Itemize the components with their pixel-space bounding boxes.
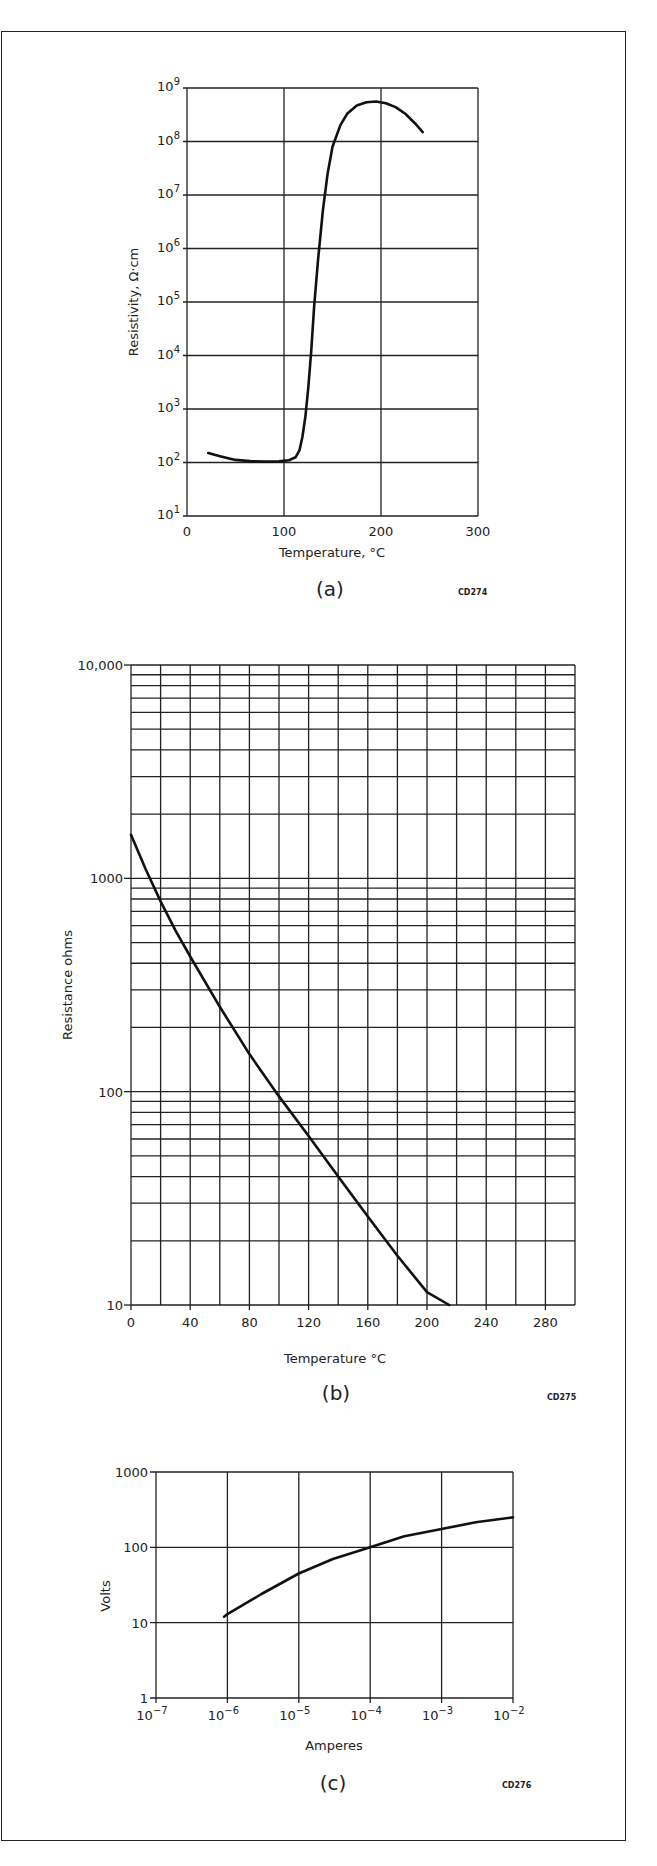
chart-c-curve xyxy=(224,1517,513,1616)
chart-a-x-tick: 100 xyxy=(272,524,297,539)
chart-a-figure-code: CD274 xyxy=(458,588,488,597)
chart-a-y-tick: 104 xyxy=(157,344,180,362)
chart-c-y-tick: 1 xyxy=(140,1691,148,1706)
chart-b-x-tick: 40 xyxy=(182,1315,199,1330)
chart-c-tick-labels: 10−710−610−510−410−310−21101001000 xyxy=(115,1465,525,1723)
chart-b-x-tick: 160 xyxy=(355,1315,380,1330)
chart-b-y-tick: 100 xyxy=(98,1085,123,1100)
chart-c-x-axis-label: Amperes xyxy=(305,1738,363,1753)
chart-a-x-axis-label: Temperature, °C xyxy=(278,545,385,560)
chart-b-grid xyxy=(124,665,575,1310)
chart-c-y-tick: 100 xyxy=(123,1540,148,1555)
chart-c-grid xyxy=(150,1472,513,1703)
figure-canvas: 0100200300101102103104105106107108109 Re… xyxy=(0,0,657,1866)
chart-a-y-tick: 106 xyxy=(157,237,180,255)
chart-c-y-axis-label: Volts xyxy=(98,1580,113,1612)
chart-c-y-tick: 10 xyxy=(131,1616,148,1631)
chart-c-x-tick: 10−5 xyxy=(279,1705,310,1723)
chart-c-x-tick: 10−6 xyxy=(208,1705,239,1723)
chart-b-x-tick: 280 xyxy=(533,1315,558,1330)
chart-b-x-axis-label: Temperature °C xyxy=(283,1351,386,1366)
chart-a-y-tick: 105 xyxy=(157,290,180,308)
chart-a-x-tick: 300 xyxy=(466,524,491,539)
chart-b-x-tick: 80 xyxy=(241,1315,258,1330)
chart-a-x-tick: 0 xyxy=(183,524,191,539)
chart-a-resistivity-vs-temperature: 0100200300101102103104105106107108109 Re… xyxy=(126,76,490,601)
chart-a-x-tick: 200 xyxy=(369,524,394,539)
chart-a-y-tick: 103 xyxy=(157,397,180,415)
chart-a-y-tick: 102 xyxy=(157,451,180,469)
chart-c-x-tick: 10−4 xyxy=(351,1705,382,1723)
chart-c-x-tick: 10−3 xyxy=(422,1705,453,1723)
chart-a-y-tick: 101 xyxy=(157,504,180,522)
chart-a-tick-labels: 0100200300101102103104105106107108109 xyxy=(157,76,490,539)
chart-c-figure-code: CD276 xyxy=(502,1781,532,1790)
chart-b-x-tick: 200 xyxy=(415,1315,440,1330)
chart-c-volts-vs-amperes: 10−710−610−510−410−310−21101001000 Volts… xyxy=(98,1465,532,1795)
chart-b-y-axis-label: Resistance ohms xyxy=(60,930,75,1040)
chart-a-y-tick: 109 xyxy=(157,76,180,94)
chart-b-y-tick: 10 xyxy=(106,1298,123,1313)
chart-c-x-tick: 10−2 xyxy=(493,1705,524,1723)
chart-b-resistance-vs-temperature: 0408012016020024028010100100010,000 Resi… xyxy=(60,658,577,1405)
chart-b-figure-code: CD275 xyxy=(547,1393,577,1402)
chart-a-y-tick: 107 xyxy=(157,183,180,201)
chart-b-x-tick: 240 xyxy=(474,1315,499,1330)
chart-b-x-tick: 120 xyxy=(296,1315,321,1330)
chart-a-y-tick: 108 xyxy=(157,130,180,148)
chart-b-panel-label: (b) xyxy=(322,1381,350,1405)
chart-c-panel-label: (c) xyxy=(320,1771,347,1795)
chart-c-x-tick: 10−7 xyxy=(136,1705,167,1723)
chart-a-y-axis-label: Resistivity, Ω·cm xyxy=(126,248,141,357)
chart-a-curve xyxy=(208,102,422,462)
chart-b-y-tick: 10,000 xyxy=(78,658,124,673)
chart-a-panel-label: (a) xyxy=(316,577,344,601)
chart-c-y-tick: 1000 xyxy=(115,1465,148,1480)
chart-b-y-tick: 1000 xyxy=(90,871,123,886)
chart-b-curve xyxy=(131,835,449,1305)
chart-b-x-tick: 0 xyxy=(127,1315,135,1330)
